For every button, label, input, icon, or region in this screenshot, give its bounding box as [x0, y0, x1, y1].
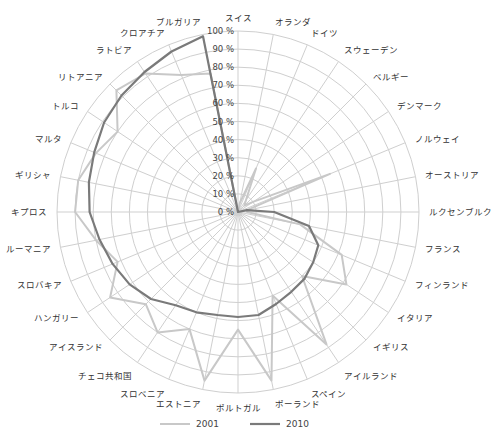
- category-label: トルコ: [52, 101, 79, 111]
- category-label: フランス: [425, 244, 461, 254]
- category-label: キプロス: [11, 207, 47, 217]
- radial-tick-label: 100 %: [207, 26, 234, 36]
- category-label: ラトビア: [96, 45, 132, 55]
- series-line-2010: [89, 36, 318, 317]
- grid-spoke: [169, 212, 238, 379]
- category-label: クロアチア: [120, 28, 165, 38]
- category-label: イタリア: [397, 313, 433, 323]
- legend-label-2010: 2010: [286, 419, 309, 429]
- category-label: オランダ: [275, 17, 311, 27]
- category-label: スウェーデン: [344, 45, 398, 55]
- category-label: オーストリア: [425, 170, 479, 180]
- radial-tick-label: 60 %: [212, 98, 234, 108]
- category-label: ハンガリー: [34, 313, 79, 323]
- category-label: ルーマニア: [6, 244, 51, 254]
- category-label: フィンランド: [415, 280, 469, 290]
- radial-tick-label: 50 %: [212, 117, 234, 127]
- radar-chart: 0 %10 %20 %30 %40 %50 %60 %70 %80 %90 %1…: [0, 0, 495, 437]
- radial-tick-label: 10 %: [212, 189, 234, 199]
- legend-label-2001: 2001: [196, 419, 219, 429]
- radial-tick-label: 70 %: [212, 80, 234, 90]
- category-label: ブルガリア: [156, 17, 201, 27]
- radial-tick-label: 90 %: [212, 44, 234, 54]
- category-label: エストニア: [156, 399, 201, 409]
- radar-chart-svg: 0 %10 %20 %30 %40 %50 %60 %70 %80 %90 %1…: [0, 0, 495, 437]
- category-label: マルタ: [35, 134, 62, 144]
- grid-spoke: [71, 212, 238, 281]
- category-label: ポルトガル: [216, 403, 261, 413]
- radial-tick-label: 30 %: [212, 153, 234, 163]
- category-label: スロバキア: [17, 280, 62, 290]
- category-label: デンマーク: [397, 101, 442, 111]
- grid-spoke: [238, 212, 405, 281]
- category-label: アイルランド: [344, 371, 398, 381]
- radial-tick-label: 40 %: [212, 135, 234, 145]
- category-label: リトアニア: [58, 72, 103, 82]
- radial-tick-label: 20 %: [212, 171, 234, 181]
- category-label: ギリシャ: [15, 170, 51, 180]
- chart-legend: 2001 2010: [160, 419, 309, 429]
- category-label: スロベニア: [120, 389, 165, 399]
- category-label: ノルウェイ: [415, 134, 460, 144]
- category-label: スペイン: [311, 389, 346, 399]
- category-label: ベルギー: [373, 72, 409, 82]
- category-label: スイス: [225, 13, 252, 23]
- radial-tick-label: 80 %: [212, 62, 234, 72]
- category-label: イギリス: [373, 342, 409, 352]
- category-label: アイスランド: [49, 342, 103, 352]
- category-label: チェコ共和国: [78, 371, 132, 381]
- category-label: ルクセンブルク: [429, 207, 492, 217]
- category-label: ドイツ: [311, 28, 338, 38]
- category-label: ポーランド: [275, 399, 320, 409]
- radial-tick-label: 0 %: [218, 207, 234, 217]
